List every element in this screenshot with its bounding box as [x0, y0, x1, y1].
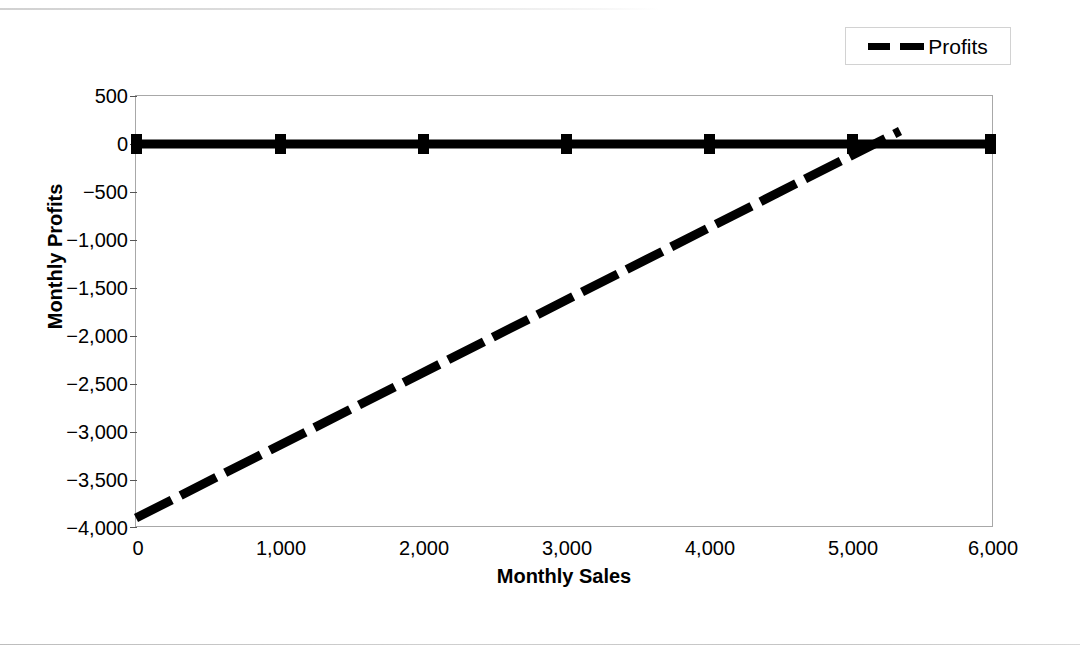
x-tick-label: 6,000: [968, 538, 1018, 558]
x-tick-label: 3,000: [542, 538, 592, 558]
x-tick-label: 0: [132, 538, 143, 558]
profit-line-chart: 500 0 −500 −1,000 −1,500 −2,000 −2,500 −…: [0, 0, 1080, 665]
x-tick-label: 4,000: [685, 538, 735, 558]
x-axis-title: Monthly Sales: [135, 565, 993, 588]
y-axis-title: Monthly Profits: [44, 157, 67, 357]
x-tick-label: 5,000: [828, 538, 878, 558]
x-tick-label: 2,000: [399, 538, 449, 558]
chart-legend[interactable]: Profits: [845, 27, 1011, 65]
legend-line-swatch-icon: [868, 43, 924, 50]
x-tick-label: 1,000: [256, 538, 306, 558]
legend-label-profits: Profits: [928, 36, 988, 57]
